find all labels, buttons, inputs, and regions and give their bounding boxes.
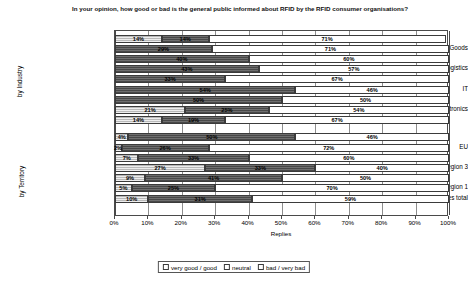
bar-segment-bad: [249, 55, 449, 63]
bar-segment-neutral: [115, 65, 259, 73]
bar-segment-bad: [269, 106, 449, 114]
bar-row: 33%67%: [115, 75, 447, 83]
bar-segment-neutral: [185, 106, 269, 114]
legend-label: very good / good: [171, 264, 217, 271]
legend-label: bad / very bad: [266, 264, 305, 271]
bar-segment-bad: [225, 75, 449, 83]
bar-row: 54%46%: [115, 86, 447, 94]
x-tick-label: 50%: [266, 219, 296, 226]
bar-segment-neutral: [205, 164, 315, 172]
bar-row: 9%41%50%: [115, 174, 447, 182]
bar-row: 14%19%67%: [115, 116, 447, 124]
bar-segment-neutral: [138, 154, 248, 162]
bar-segment-bad: [282, 174, 449, 182]
bar-segment-bad: [209, 144, 449, 152]
x-tick-label: 40%: [233, 219, 263, 226]
bar-segment-neutral: [132, 184, 216, 192]
chart-title: In your opinion, how good or bad is the …: [70, 4, 410, 13]
bar-row: 4%50%46%: [115, 133, 447, 141]
bar-segment-bad: [295, 86, 449, 94]
bar-row: 14%14%71%: [115, 35, 447, 43]
bar-segment-neutral: [115, 45, 212, 53]
bar-segment-neutral: [162, 35, 209, 43]
bar-segment-good: [115, 133, 128, 141]
bar-segment-bad: [282, 96, 449, 104]
bar-segment-good: [115, 174, 145, 182]
x-tick-label: 0%: [99, 219, 129, 226]
bar-row: 40%60%: [115, 55, 447, 63]
x-tick-label: 70%: [333, 219, 363, 226]
bar-segment-good: [115, 154, 138, 162]
x-tick-label: 30%: [199, 219, 229, 226]
bar-segment-neutral: [115, 55, 249, 63]
axis-group-label-industry: by Industry: [16, 52, 23, 112]
bar-row: 43%57%: [115, 65, 447, 73]
x-tick-label: 60%: [299, 219, 329, 226]
x-tick-label: 90%: [400, 219, 430, 226]
bar-row: 29%71%: [115, 45, 447, 53]
x-tick-label: 100%: [433, 219, 463, 226]
plot-area: 14%14%71%29%71%40%60%43%57%33%67%54%46%5…: [114, 30, 448, 216]
bar-segment-bad: [212, 45, 449, 53]
x-tick-label: 20%: [166, 219, 196, 226]
bar-segment-bad: [249, 154, 449, 162]
x-tick-label: 10%: [132, 219, 162, 226]
bar-segment-bad: [215, 184, 449, 192]
bar-segment-good: [115, 116, 162, 124]
bar-segment-neutral: [122, 144, 209, 152]
bar-row: 2%26%72%: [115, 144, 447, 152]
bar-segment-bad: [209, 35, 446, 43]
bar-segment-bad: [252, 195, 449, 203]
legend-item[interactable]: neutral: [224, 264, 251, 271]
bar-row: 21%25%54%: [115, 106, 447, 114]
chart-container: In your opinion, how good or bad is the …: [0, 0, 468, 289]
bar-segment-good: [115, 195, 148, 203]
legend-item[interactable]: bad / very bad: [258, 264, 305, 271]
bar-row: 50%50%: [115, 96, 447, 104]
bar-segment-bad: [295, 133, 449, 141]
axis-group-label-territory: by Territory: [18, 152, 25, 212]
bar-segment-neutral: [145, 174, 282, 182]
x-tick-label: 80%: [366, 219, 396, 226]
bar-segment-neutral: [162, 116, 225, 124]
bar-row: 10%31%59%: [115, 195, 447, 203]
legend-label: neutral: [232, 264, 251, 271]
legend-swatch-bad: [258, 264, 264, 270]
bar-segment-bad: [315, 164, 449, 172]
bar-segment-good: [115, 35, 162, 43]
bar-segment-neutral: [115, 96, 282, 104]
legend-swatch-good: [163, 264, 169, 270]
bar-row: 27%33%40%: [115, 164, 447, 172]
bar-row: 7%33%60%: [115, 154, 447, 162]
gridline: [449, 31, 450, 215]
chart-legend: very good / goodneutralbad / very bad: [158, 261, 310, 273]
bar-segment-neutral: [148, 195, 252, 203]
bar-segment-neutral: [115, 86, 295, 94]
legend-swatch-neutral: [224, 264, 230, 270]
x-axis-title: Replies: [114, 230, 448, 237]
bar-segment-bad: [225, 116, 449, 124]
bar-segment-neutral: [115, 75, 225, 83]
bar-segment-good: [115, 164, 205, 172]
bar-segment-good: [115, 184, 132, 192]
bar-segment-neutral: [128, 133, 295, 141]
bar-segment-bad: [259, 65, 449, 73]
bar-segment-good: [115, 106, 185, 114]
legend-item[interactable]: very good / good: [163, 264, 217, 271]
bar-segment-good: [115, 144, 122, 152]
bar-row: 5%25%70%: [115, 184, 447, 192]
